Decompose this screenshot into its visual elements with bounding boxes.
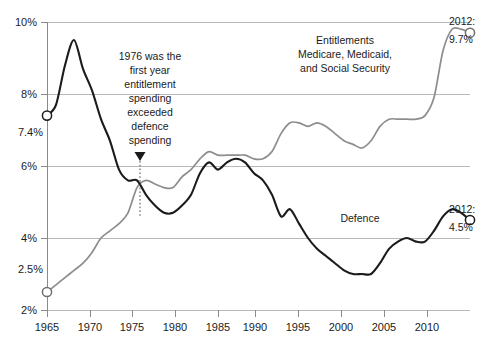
xtick-label-2010: 2010 <box>415 321 439 333</box>
crossover-annotation: 1976 was the first year entitlement spen… <box>119 50 182 216</box>
ytick-label-8pct: 8% <box>21 88 37 100</box>
ytick-label-6pct: 6% <box>21 160 37 172</box>
line-chart-svg: 10% 8% 6% 4% 2% 7.4% 2.5% 1965 1970 1975… <box>0 0 496 353</box>
entitlements-start-value-label: 2.5% <box>18 263 43 275</box>
xtick-label-1975: 1975 <box>120 321 144 333</box>
entitlements-end-year: 2012: <box>449 15 475 27</box>
annot-line-1: 1976 was the <box>119 50 182 62</box>
entitlements-series-label: Entitlements Medicare, Medicaid, and Soc… <box>298 34 392 74</box>
xtick-label-1965: 1965 <box>35 321 59 333</box>
gridlines-horizontal <box>47 22 470 310</box>
annotation-down-arrow-icon <box>135 152 146 161</box>
annot-line-4: spending <box>129 92 172 104</box>
x-axis-ticks <box>47 310 427 317</box>
entitlements-label-line2: Medicare, Medicaid, <box>298 48 392 60</box>
series-line-defence <box>47 40 470 275</box>
entitlements-start-marker <box>42 287 51 296</box>
ytick-label-10pct: 10% <box>15 16 37 28</box>
xtick-label-2005: 2005 <box>372 321 396 333</box>
xtick-label-1970: 1970 <box>78 321 102 333</box>
xtick-label-2000: 2000 <box>329 321 353 333</box>
annot-line-6: defence <box>131 120 169 132</box>
annot-line-3: entitlement <box>124 78 175 90</box>
entitlements-label-line3: and Social Security <box>300 62 391 74</box>
chart-container: 10% 8% 6% 4% 2% 7.4% 2.5% 1965 1970 1975… <box>0 0 496 353</box>
defence-series-label: Defence <box>340 212 379 224</box>
defence-end-value: 4.5% <box>449 221 473 233</box>
defence-end-year: 2012: <box>449 203 475 215</box>
xtick-label-1985: 1985 <box>206 321 230 333</box>
annot-line-7: spending <box>129 134 172 146</box>
annot-line-5: exceeded <box>127 106 173 118</box>
xtick-label-1980: 1980 <box>163 321 187 333</box>
entitlements-end-value: 9.7% <box>449 33 473 45</box>
xtick-label-1995: 1995 <box>286 321 310 333</box>
defence-start-marker <box>42 111 51 120</box>
series-line-entitlements <box>47 28 470 292</box>
ytick-label-2pct: 2% <box>21 304 37 316</box>
entitlements-label-line1: Entitlements <box>316 34 374 46</box>
xtick-label-1990: 1990 <box>243 321 267 333</box>
defence-start-value-label: 7.4% <box>18 126 43 138</box>
annot-line-2: first year <box>130 64 171 76</box>
ytick-label-4pct: 4% <box>21 232 37 244</box>
